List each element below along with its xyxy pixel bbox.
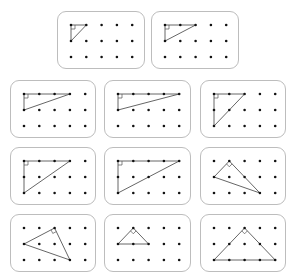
- triangle-diagram: [11, 215, 97, 273]
- dot-grid-card: [104, 80, 191, 138]
- dot-grid-card: [104, 214, 191, 272]
- grid-dot: [259, 259, 262, 262]
- grid-dot: [132, 243, 135, 246]
- grid-dot: [23, 176, 26, 179]
- grid-dot: [194, 56, 197, 59]
- grid-dot: [163, 176, 166, 179]
- grid-dot: [243, 259, 246, 262]
- grid-dot: [84, 160, 87, 163]
- grid-dot: [178, 176, 181, 179]
- grid-dot: [163, 109, 166, 112]
- grid-dot: [163, 192, 166, 195]
- dot-grid-card: [10, 214, 96, 272]
- grid-dot: [243, 109, 246, 112]
- grid-dot: [178, 125, 181, 128]
- grid-dot: [213, 109, 216, 112]
- triangle-diagram: [152, 12, 240, 70]
- triangle-diagram: [105, 81, 192, 139]
- grid-dot: [85, 24, 88, 27]
- grid-dot: [117, 109, 120, 112]
- grid-dot: [178, 160, 181, 163]
- grid-dot: [117, 125, 120, 128]
- grid-dot: [210, 24, 213, 27]
- grid-dot: [53, 192, 56, 195]
- grid-dot: [274, 93, 277, 96]
- grid-dot: [274, 125, 277, 128]
- grid-dot: [117, 176, 120, 179]
- grid-dot: [53, 125, 56, 128]
- grid-dot: [100, 40, 103, 43]
- grid-dot: [259, 176, 262, 179]
- grid-dot: [53, 227, 56, 230]
- grid-dot: [259, 93, 262, 96]
- grid-dot: [225, 40, 228, 43]
- grid-dot: [38, 125, 41, 128]
- grid-dot: [147, 243, 150, 246]
- grid-dot: [116, 40, 119, 43]
- grid-dot: [117, 93, 120, 96]
- grid-dot: [259, 109, 262, 112]
- triangle-diagram: [58, 12, 146, 70]
- grid-dot: [84, 176, 87, 179]
- grid-dot: [38, 259, 41, 262]
- grid-dot: [147, 192, 150, 195]
- grid-dot: [70, 56, 73, 59]
- grid-dot: [69, 227, 72, 230]
- triangle-diagram: [201, 148, 287, 206]
- grid-dot: [84, 259, 87, 262]
- grid-dot: [228, 227, 231, 230]
- grid-dot: [179, 56, 182, 59]
- grid-dot: [228, 259, 231, 262]
- right-angle-marker: [131, 231, 137, 234]
- triangle-outline: [24, 161, 70, 193]
- grid-dot: [243, 125, 246, 128]
- grid-dot: [100, 24, 103, 27]
- grid-dot: [147, 176, 150, 179]
- grid-dot: [132, 160, 135, 163]
- dot-grid-card: [10, 147, 96, 205]
- grid-dot: [131, 40, 134, 43]
- grid-dot: [84, 109, 87, 112]
- grid-dot: [213, 259, 216, 262]
- triangle-outline: [118, 228, 149, 244]
- grid-dot: [117, 227, 120, 230]
- triangle-diagram: [201, 215, 287, 273]
- grid-dot: [178, 93, 181, 96]
- dot-grid-card: [57, 11, 145, 69]
- grid-dot: [132, 259, 135, 262]
- grid-dot: [228, 93, 231, 96]
- grid-dot: [163, 160, 166, 163]
- grid-dot: [38, 176, 41, 179]
- triangle-outline: [24, 94, 70, 110]
- triangle-outline: [165, 25, 196, 41]
- grid-dot: [117, 160, 120, 163]
- triangle-diagram: [105, 148, 192, 206]
- grid-dot: [243, 243, 246, 246]
- grid-dot: [225, 24, 228, 27]
- triangle-outline: [118, 94, 179, 110]
- grid-dot: [194, 40, 197, 43]
- grid-dot: [53, 176, 56, 179]
- grid-dot: [23, 109, 26, 112]
- grid-dot: [53, 259, 56, 262]
- grid-dot: [85, 56, 88, 59]
- right-angle-marker: [227, 164, 233, 167]
- grid-dot: [228, 160, 231, 163]
- grid-dot: [274, 109, 277, 112]
- grid-dot: [23, 192, 26, 195]
- grid-dot: [23, 243, 26, 246]
- grid-dot: [23, 160, 26, 163]
- grid-dot: [53, 160, 56, 163]
- grid-dot: [85, 40, 88, 43]
- grid-dot: [38, 227, 41, 230]
- dot-grid-card: [151, 11, 239, 69]
- grid-dot: [213, 227, 216, 230]
- grid-dot: [84, 125, 87, 128]
- grid-dot: [70, 24, 73, 27]
- grid-dot: [259, 160, 262, 163]
- triangle-diagram: [201, 81, 287, 139]
- grid-dot: [23, 227, 26, 230]
- dot-grid-card: [10, 80, 96, 138]
- grid-dot: [147, 93, 150, 96]
- grid-dot: [38, 243, 41, 246]
